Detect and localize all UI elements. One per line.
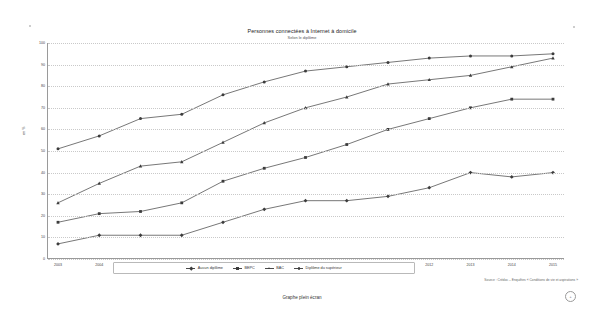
grid-line — [48, 86, 564, 87]
x-axis-tick-label: 2012 — [416, 263, 442, 267]
data-point-marker — [304, 70, 307, 73]
triangle-marker-icon — [265, 268, 274, 269]
data-point-marker — [262, 207, 266, 211]
legend-label: Diplôme du supérieur — [306, 266, 342, 270]
footer-caption: Graphe plein écran — [0, 295, 604, 300]
data-point-marker — [510, 98, 513, 101]
circle-marker-icon — [294, 268, 303, 269]
grid-line — [48, 129, 564, 130]
legend-item-aucun-diplome[interactable]: Aucun diplôme — [186, 266, 223, 270]
y-axis-tick-label: 70 — [35, 106, 45, 110]
data-point-marker — [57, 147, 60, 150]
data-point-marker — [387, 61, 390, 64]
x-axis-tick-label: 2014 — [499, 263, 525, 267]
series-line — [58, 58, 553, 203]
data-point-marker — [345, 65, 348, 68]
data-point-marker — [427, 186, 431, 190]
series-line — [58, 173, 553, 244]
y-axis-tick-label: 40 — [35, 171, 45, 175]
data-point-marker — [180, 113, 183, 116]
grid-line — [48, 108, 564, 109]
data-point-marker — [345, 199, 349, 203]
chart-subtitle: Selon le diplôme — [0, 35, 604, 40]
legend-item-bepc[interactable]: BEPC — [233, 266, 255, 270]
fullscreen-button[interactable]: + — [565, 291, 576, 302]
y-axis-tick-label: 20 — [35, 214, 45, 218]
data-point-marker — [139, 210, 142, 213]
x-axis-tick-label: 2003 — [45, 263, 71, 267]
legend-label: Aucun diplôme — [198, 266, 223, 270]
data-point-marker — [222, 93, 225, 96]
plot-area: 0102030405060708090100200320042005200620… — [47, 43, 564, 259]
chart-title: Personnes connectées à Internet à domici… — [0, 28, 604, 34]
grid-line — [48, 65, 564, 66]
grid-line — [48, 151, 564, 152]
data-point-marker — [304, 199, 308, 203]
y-axis-tick-label: 0 — [35, 257, 45, 261]
y-axis-tick-label: 10 — [35, 235, 45, 239]
legend-label: BAC — [276, 266, 284, 270]
y-axis-tick-label: 100 — [35, 41, 45, 45]
y-axis-tick-label: 50 — [35, 149, 45, 153]
data-point-marker — [57, 221, 60, 224]
data-point-marker — [222, 180, 225, 183]
y-axis-tick-label: 80 — [35, 84, 45, 88]
data-point-marker — [469, 54, 472, 57]
x-axis-tick-label: 2015 — [540, 263, 566, 267]
data-point-marker — [263, 167, 266, 170]
data-point-marker — [551, 56, 554, 59]
data-point-marker — [428, 57, 431, 60]
chart-legend: Aucun diplôme BEPC BAC Diplôme du supéri… — [113, 262, 415, 274]
legend-item-diplome-superieur[interactable]: Diplôme du supérieur — [294, 266, 342, 270]
grid-line — [48, 259, 564, 260]
corner-marker-top-left — [29, 25, 31, 27]
data-point-marker — [552, 52, 555, 55]
series-line — [58, 54, 553, 149]
data-point-marker — [221, 220, 225, 224]
grid-line — [48, 43, 564, 44]
chart-source: Source : Crédoc – Enquêtes « Conditions … — [484, 278, 578, 282]
y-axis-tick-label: 60 — [35, 127, 45, 131]
data-point-marker — [139, 117, 142, 120]
data-point-marker — [180, 201, 183, 204]
data-point-marker — [263, 80, 266, 83]
data-point-marker — [98, 134, 101, 137]
data-point-marker — [428, 117, 431, 120]
square-marker-icon — [233, 268, 242, 269]
y-axis-label: en % — [22, 126, 26, 135]
y-axis-tick-label: 90 — [35, 63, 45, 67]
grid-line — [48, 216, 564, 217]
chart-page: Personnes connectées à Internet à domici… — [0, 0, 604, 312]
y-axis-tick-label: 30 — [35, 192, 45, 196]
legend-item-bac[interactable]: BAC — [265, 266, 284, 270]
legend-label: BEPC — [244, 266, 254, 270]
diamond-marker-icon — [186, 268, 195, 269]
data-point-marker — [56, 242, 60, 246]
grid-line — [48, 237, 564, 238]
x-axis-tick-label: 2004 — [86, 263, 112, 267]
data-point-marker — [304, 156, 307, 159]
data-point-marker — [98, 212, 101, 215]
x-axis-tick-label: 2013 — [458, 263, 484, 267]
grid-line — [48, 194, 564, 195]
data-point-marker — [510, 54, 513, 57]
data-point-marker — [510, 175, 514, 179]
data-point-marker — [345, 143, 348, 146]
series-line — [58, 99, 553, 222]
data-point-marker — [552, 98, 555, 101]
grid-line — [48, 173, 564, 174]
